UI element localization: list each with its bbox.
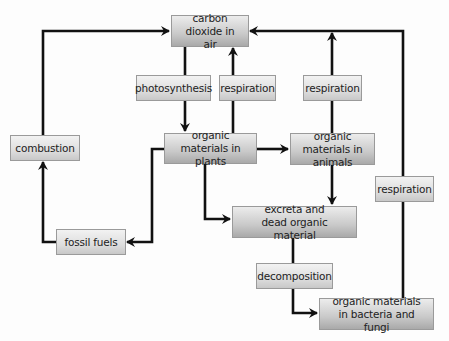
- carbon-cycle-diagram: carbon dioxide in air photosynthesis res…: [0, 0, 449, 341]
- node-fossil-fuels: fossil fuels: [56, 229, 126, 255]
- node-carbon-dioxide-in-air: carbon dioxide in air: [171, 15, 249, 47]
- arrow-plants-to-fossil-fuels: [127, 149, 164, 242]
- node-excreta-and-dead-organic-material: excreta and dead organic material: [232, 206, 357, 238]
- label-photosynthesis: photosynthesis: [136, 75, 211, 101]
- arrow-plants-to-excreta: [205, 163, 230, 219]
- arrow-fossil-fuels-to-combustion: [43, 162, 56, 242]
- label-combustion: combustion: [10, 135, 80, 161]
- connector-lines: [0, 0, 449, 341]
- label-respiration-plants: respiration: [219, 75, 276, 101]
- label-respiration-decomposers: respiration: [375, 176, 434, 202]
- label-respiration-animals: respiration: [303, 75, 362, 101]
- node-organic-materials-in-bacteria-and-fungi: organic materials in bacteria and fungi: [319, 298, 434, 330]
- node-organic-materials-in-animals: organic materials in animals: [290, 133, 375, 165]
- node-organic-materials-in-plants: organic materials in plants: [164, 133, 257, 164]
- arrow-decomposition-to-bacteria: [293, 289, 317, 313]
- label-decomposition: decomposition: [256, 263, 333, 289]
